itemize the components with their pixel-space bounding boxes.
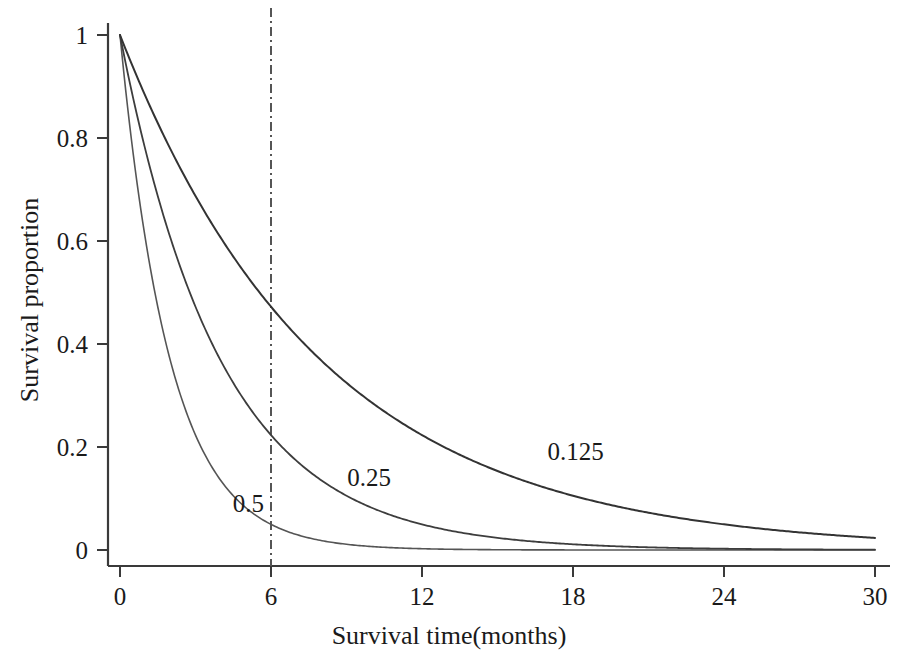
x-tick-label: 30 xyxy=(863,584,888,609)
curve-label-0-125: 0.125 xyxy=(547,439,603,464)
survival-curves xyxy=(120,35,875,550)
x-tick-label: 0 xyxy=(114,584,127,609)
axes xyxy=(108,23,890,566)
x-tick-label: 24 xyxy=(712,584,737,609)
curve-label-0-25: 0.25 xyxy=(347,464,391,489)
curve-label-0-5: 0.5 xyxy=(233,491,264,516)
x-tick-label: 6 xyxy=(265,584,278,609)
x-axis-title: Survival time(months) xyxy=(332,623,567,649)
x-tick-label: 18 xyxy=(561,584,586,609)
y-axis-title: Survival proportion xyxy=(17,198,43,402)
y-tick-label: 0.6 xyxy=(0,229,88,254)
plot-canvas xyxy=(0,0,898,671)
axis-ticks xyxy=(97,35,875,577)
y-tick-label: 0.4 xyxy=(0,332,88,357)
y-tick-label: 0 xyxy=(0,538,88,563)
y-tick-label: 0.8 xyxy=(0,126,88,151)
y-tick-label: 1 xyxy=(0,23,88,48)
x-tick-label: 12 xyxy=(410,584,435,609)
survival-curve-figure: 00.20.40.60.81 0612182430 0.50.250.125 S… xyxy=(0,0,898,671)
y-tick-label: 0.2 xyxy=(0,435,88,460)
